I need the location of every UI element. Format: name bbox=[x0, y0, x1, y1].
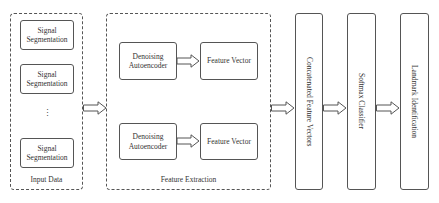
signal-segmentation-label: Signal Segmentation bbox=[21, 26, 73, 45]
landmark-identification-label: Landmark Identification bbox=[410, 65, 419, 138]
input-data-caption: Input Data bbox=[10, 175, 83, 184]
feature-vector-label: Feature Vector bbox=[207, 56, 251, 65]
signal-segmentation-box-3: Signal Segmentation bbox=[20, 138, 74, 168]
concatenated-feature-vectors-box: Concatenated Feature Vectors bbox=[295, 13, 323, 190]
denoising-autoencoder-label: Denoising Autoencoder bbox=[120, 132, 176, 151]
denoising-autoencoder-label: Denoising Autoencoder bbox=[120, 52, 176, 71]
signal-segmentation-box-1: Signal Segmentation bbox=[20, 20, 74, 50]
vertical-ellipsis: ⋮ bbox=[37, 108, 57, 122]
arrow-right-icon bbox=[323, 101, 347, 115]
feature-vector-label: Feature Vector bbox=[207, 137, 251, 146]
arrow-right-icon bbox=[376, 101, 400, 115]
concatenated-feature-vectors-label: Concatenated Feature Vectors bbox=[304, 57, 313, 146]
feature-vector-box-2: Feature Vector bbox=[200, 123, 258, 160]
arrow-right-icon bbox=[271, 101, 295, 115]
arrow-right-icon bbox=[177, 54, 200, 68]
signal-segmentation-label: Signal Segmentation bbox=[21, 144, 73, 163]
denoising-autoencoder-box-1: Denoising Autoencoder bbox=[119, 42, 177, 80]
signal-segmentation-label: Signal Segmentation bbox=[21, 70, 73, 89]
softmax-classifier-box: Softmax Classifier bbox=[347, 13, 376, 190]
arrow-right-icon bbox=[83, 101, 107, 115]
signal-segmentation-box-2: Signal Segmentation bbox=[20, 64, 74, 94]
feature-extraction-caption: Feature Extraction bbox=[106, 175, 271, 184]
feature-extraction-group bbox=[106, 13, 271, 190]
denoising-autoencoder-box-2: Denoising Autoencoder bbox=[119, 123, 177, 160]
feature-vector-box-1: Feature Vector bbox=[200, 42, 258, 80]
softmax-classifier-label: Softmax Classifier bbox=[357, 73, 366, 129]
landmark-identification-box: Landmark Identification bbox=[400, 13, 429, 190]
arrow-right-icon bbox=[177, 134, 200, 148]
